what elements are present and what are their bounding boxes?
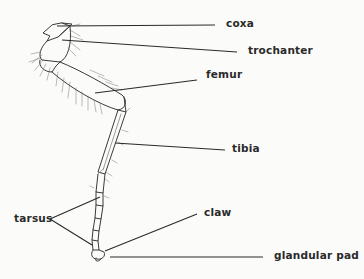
claw-shape bbox=[92, 250, 105, 261]
tibia-leader bbox=[115, 143, 225, 150]
label-trochanter: trochanter bbox=[248, 44, 313, 56]
tarsus-leader-lower bbox=[50, 219, 92, 245]
claw-leader bbox=[105, 214, 197, 251]
trochanter-leader bbox=[62, 40, 237, 52]
leg-diagram bbox=[0, 0, 364, 279]
label-tarsus: tarsus bbox=[14, 212, 52, 224]
label-glandular-pad: glandular pad bbox=[274, 249, 359, 261]
label-coxa: coxa bbox=[226, 17, 254, 29]
label-claw: claw bbox=[204, 206, 231, 218]
femur-leader bbox=[95, 80, 197, 93]
label-femur: femur bbox=[206, 68, 242, 80]
coxa-leader bbox=[57, 25, 215, 26]
tarsus-shape bbox=[92, 174, 105, 250]
tarsus-leader-upper bbox=[50, 197, 100, 219]
label-tibia: tibia bbox=[232, 142, 260, 154]
